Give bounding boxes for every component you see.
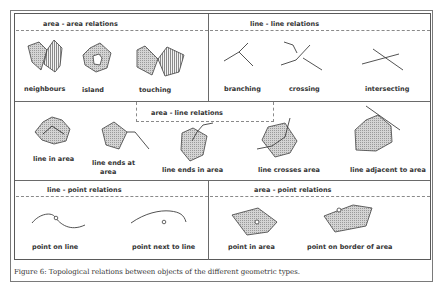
- crossing-icon: [281, 42, 322, 70]
- line-ends-in-area-icon: [181, 123, 213, 161]
- branching-icon: [224, 43, 253, 66]
- line-crosses-area-icon: [257, 118, 297, 157]
- touching-icon: [137, 46, 184, 76]
- point-next-to-line-icon: [131, 211, 186, 224]
- point-in-area-icon: [232, 208, 277, 235]
- point-on-border-of-area-icon: [324, 205, 372, 232]
- island-icon: [83, 43, 111, 72]
- neighbours-icon: [28, 40, 62, 72]
- topology-graphics: [0, 0, 441, 290]
- line-adjacent-to-area-icon: [355, 106, 400, 151]
- line-ends-at-area-icon: [102, 122, 149, 149]
- figure-caption: Figure 6: Topological relations between …: [14, 268, 300, 276]
- line-in-area-icon: [35, 117, 70, 144]
- intersecting-icon: [362, 49, 403, 70]
- point-on-line-icon: [32, 214, 85, 228]
